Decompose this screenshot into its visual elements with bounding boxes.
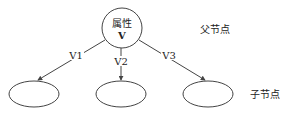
edge-v1: V1 [38, 40, 105, 80]
parent-attribute-label: 属性 [112, 17, 132, 29]
edge-v2: V2 [113, 48, 129, 80]
edge-label-v2: V2 [113, 56, 128, 67]
child-node-1 [9, 81, 59, 107]
tree-diagram: 属性 V V1 V2 V3 父节点 子节点 [0, 0, 286, 120]
edge-label-v1: V1 [68, 50, 83, 61]
child-node-3 [183, 81, 233, 107]
parent-node: 属性 V [102, 8, 142, 48]
child-node-caption: 子节点 [250, 89, 280, 100]
parent-node-caption: 父节点 [200, 24, 230, 35]
child-node-2 [96, 81, 146, 107]
edge-label-v3: V3 [161, 50, 176, 61]
parent-value-label: V [117, 30, 126, 41]
edge-v3: V3 [139, 40, 205, 80]
